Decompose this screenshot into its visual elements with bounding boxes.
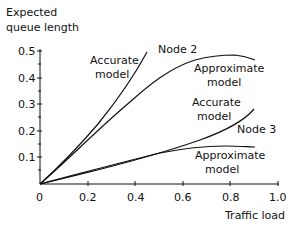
queue-length-chart: Expected queue length 0.5 0.4 0.3 0.2 0.… <box>0 0 301 233</box>
x-tick-0.4: 0.4 <box>127 191 145 204</box>
y-axis-label-line2: queue length <box>6 21 79 34</box>
x-tick-0.6: 0.6 <box>174 191 192 204</box>
y-axis-label-line1: Expected <box>6 6 57 19</box>
node2-accurate-label-line1: Accurate <box>90 54 139 67</box>
y-tick-0.5: 0.5 <box>18 45 36 58</box>
node2-accurate-label-line2: model <box>95 68 129 81</box>
x-tick-0.2: 0.2 <box>79 191 97 204</box>
node2-approximate-label-line2: model <box>207 76 241 89</box>
x-axis-label: Traffic load <box>224 209 285 222</box>
node2-label: Node 2 <box>158 43 197 56</box>
y-tick-0.1: 0.1 <box>18 151 36 164</box>
node3-approximate-label-line1: Approximate <box>195 149 265 162</box>
node3-approximate-label-line2: model <box>205 163 239 176</box>
x-tick-0.8: 0.8 <box>222 191 240 204</box>
y-tick-0.3: 0.3 <box>18 98 36 111</box>
y-tick-0.4: 0.4 <box>18 72 36 85</box>
node3-accurate-label-line2: model <box>197 110 231 123</box>
node3-accurate-label-line1: Accurate <box>192 96 241 109</box>
x-tick-1.0: 1.0 <box>269 191 287 204</box>
x-tick-0: 0 <box>36 191 43 204</box>
node3-label: Node 3 <box>237 123 276 136</box>
node2-approximate-label-line1: Approximate <box>194 62 264 75</box>
y-tick-0.2: 0.2 <box>18 125 36 138</box>
y-axis <box>37 49 42 184</box>
x-axis <box>40 181 279 186</box>
node2-accurate-curve <box>40 52 147 184</box>
